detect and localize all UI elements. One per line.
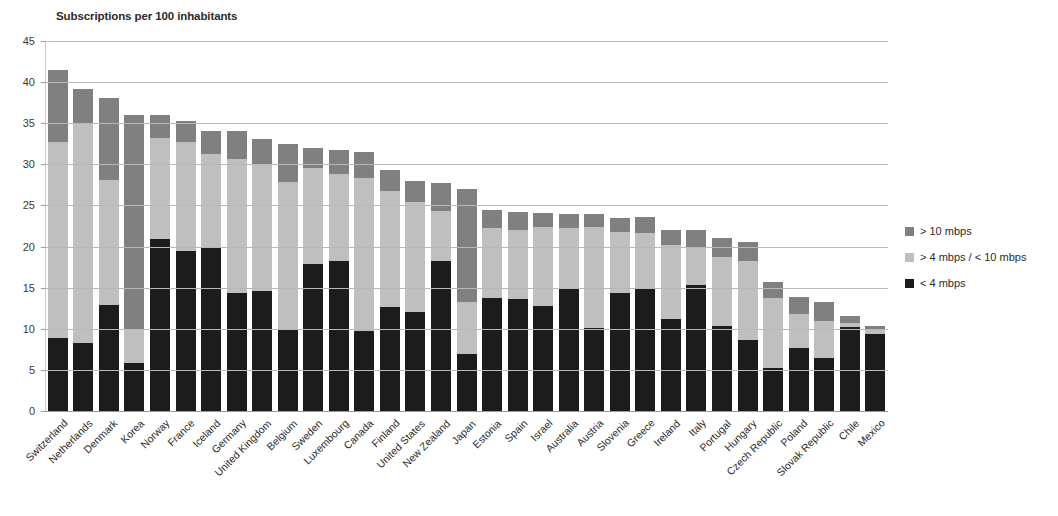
- bar-segment: [278, 144, 298, 182]
- bar-group: [99, 41, 119, 411]
- legend-item[interactable]: > 4 mbps / < 10 mbps: [905, 244, 1055, 270]
- chart-legend: > 10 mbps> 4 mbps / < 10 mbps< 4 mbps: [905, 218, 1055, 296]
- bar-group: [380, 41, 400, 411]
- gridline-10: [45, 329, 888, 330]
- bar-segment: [380, 307, 400, 411]
- gridline-25: [45, 205, 888, 206]
- y-tick-label-45: 45: [23, 35, 35, 47]
- bar-segment: [73, 89, 93, 124]
- bar-segment: [738, 340, 758, 411]
- bar-segment: [840, 323, 860, 327]
- y-tick-label-0: 0: [29, 405, 35, 417]
- bar-segment: [559, 228, 579, 290]
- y-tick-label-15: 15: [23, 282, 35, 294]
- legend-item[interactable]: > 10 mbps: [905, 218, 1055, 244]
- bar-segment: [329, 150, 349, 175]
- y-tick-label-35: 35: [23, 117, 35, 129]
- bar-segment: [252, 139, 272, 164]
- bar-segment: [99, 305, 119, 411]
- bar-segment: [48, 142, 68, 338]
- bar-group: [508, 41, 528, 411]
- gridline-20: [45, 247, 888, 248]
- chart-title: Subscriptions per 100 inhabitants: [56, 10, 237, 22]
- x-tick-label: Mexico: [855, 417, 887, 449]
- bar-segment: [252, 291, 272, 411]
- bar-segment: [814, 302, 834, 321]
- legend-swatch-icon: [905, 253, 914, 262]
- bar-segment: [354, 331, 374, 411]
- bar-segment: [635, 217, 655, 233]
- bar-segment: [227, 159, 247, 293]
- bar-segment: [686, 285, 706, 411]
- gridline-30: [45, 164, 888, 165]
- bar-segment: [533, 306, 553, 411]
- bar-segment: [865, 334, 885, 411]
- legend-item[interactable]: < 4 mbps: [905, 270, 1055, 296]
- bar-segment: [150, 239, 170, 411]
- bar-segment: [227, 131, 247, 159]
- bar-group: [559, 41, 579, 411]
- bar-segment: [661, 319, 681, 411]
- y-tick-label-20: 20: [23, 241, 35, 253]
- bars-layer: [45, 41, 888, 411]
- bar-segment: [840, 316, 860, 323]
- bar-group: [73, 41, 93, 411]
- bar-segment: [482, 210, 502, 229]
- y-tick-label-30: 30: [23, 158, 35, 170]
- bar-segment: [712, 238, 732, 257]
- bar-segment: [763, 282, 783, 298]
- bar-segment: [73, 124, 93, 343]
- bar-group: [150, 41, 170, 411]
- legend-swatch-icon: [905, 279, 914, 288]
- bar-segment: [635, 288, 655, 411]
- bar-segment: [252, 164, 272, 291]
- bar-segment: [508, 212, 528, 230]
- x-tick-label: Ireland: [651, 417, 682, 448]
- bar-segment: [201, 131, 221, 154]
- bar-segment: [482, 298, 502, 411]
- bar-segment: [48, 338, 68, 411]
- bar-group: [840, 41, 860, 411]
- legend-label: > 10 mbps: [920, 225, 972, 237]
- gridline-40: [45, 82, 888, 83]
- bar-group: [303, 41, 323, 411]
- bar-segment: [303, 148, 323, 169]
- bar-segment: [789, 314, 809, 348]
- bar-segment: [227, 293, 247, 411]
- y-tick-label-10: 10: [23, 323, 35, 335]
- bar-segment: [584, 214, 604, 227]
- bar-group: [661, 41, 681, 411]
- x-tick-label: Estonia: [470, 417, 503, 450]
- bar-segment: [99, 98, 119, 180]
- bar-segment: [431, 183, 451, 211]
- bar-group: [865, 41, 885, 411]
- bar-segment: [329, 261, 349, 411]
- bar-segment: [686, 247, 706, 285]
- x-axis-labels: SwitzerlandNetherlandsDenmarkKoreaNorway…: [45, 411, 888, 516]
- bar-segment: [48, 70, 68, 142]
- bar-segment: [686, 230, 706, 247]
- bar-segment: [738, 242, 758, 260]
- bar-segment: [559, 214, 579, 228]
- bar-group: [482, 41, 502, 411]
- bar-segment: [99, 180, 119, 305]
- bar-segment: [201, 154, 221, 249]
- x-tick-label: France: [165, 417, 197, 449]
- bar-segment: [584, 227, 604, 328]
- chart-container: Subscriptions per 100 inhabitants 051015…: [0, 0, 1058, 516]
- y-tick-label-25: 25: [23, 199, 35, 211]
- bar-segment: [610, 293, 630, 411]
- x-tick-label: Greece: [624, 417, 657, 450]
- plot-area: [45, 41, 888, 411]
- bar-segment: [712, 257, 732, 325]
- bar-group: [252, 41, 272, 411]
- bar-segment: [610, 218, 630, 232]
- gridline-35: [45, 123, 888, 124]
- bar-segment: [661, 245, 681, 319]
- bar-segment: [661, 230, 681, 245]
- bar-segment: [457, 354, 477, 411]
- bar-segment: [789, 297, 809, 314]
- bar-group: [533, 41, 553, 411]
- bar-segment: [763, 368, 783, 411]
- bar-group: [763, 41, 783, 411]
